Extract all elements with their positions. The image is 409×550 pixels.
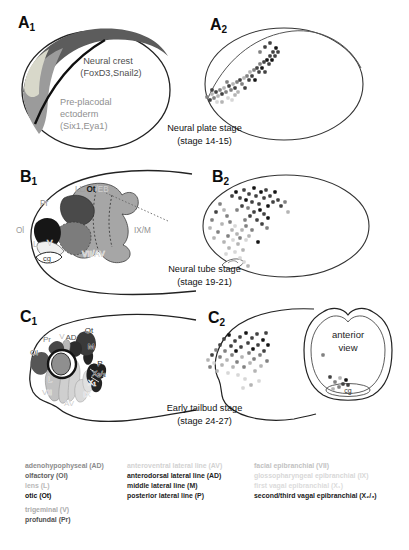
otic-label-part: Ot <box>86 185 95 194</box>
cell-position-dot <box>220 92 223 95</box>
ppe-label-2: ectoderm <box>60 109 99 119</box>
cell-position-dot <box>268 194 271 197</box>
legend-item: profundal (Pr) <box>25 515 125 525</box>
legend-column-placodes: adenohypophyseal (AD)olfactory (Ol)lens … <box>25 461 125 525</box>
cell-position-dot <box>245 74 248 77</box>
caption-neural-plate-stage: Neural plate stage (stage 14-15) <box>0 122 409 148</box>
cell-position-dot <box>262 196 265 199</box>
cell-position-dot <box>258 208 261 211</box>
lens-blob <box>52 353 71 375</box>
cell-position-dot <box>248 361 251 364</box>
caption-line1: Neural tube stage <box>0 263 409 276</box>
cell-position-dot <box>265 58 268 61</box>
cell-position-dot <box>247 192 250 195</box>
trigeminal-label: V <box>47 239 53 248</box>
middle-lateral-label: M <box>88 342 95 351</box>
cell-position-dot <box>265 226 268 229</box>
posterior-lateral-label: P <box>97 359 102 368</box>
cell-position-dot <box>256 240 259 243</box>
glossopharyngeal-middle-label: IX/M <box>134 226 151 235</box>
legend-item: olfactory (Ol) <box>25 471 125 481</box>
cell-position-dot <box>229 344 232 347</box>
cell-position-dot <box>218 355 221 358</box>
cell-position-dot <box>210 88 213 91</box>
cell-position-dot <box>235 232 238 235</box>
facial-anteroventral-label: VII/AV <box>82 250 105 259</box>
cell-position-dot <box>255 66 258 69</box>
cell-position-dot <box>222 337 225 340</box>
cell-position-dot <box>226 371 229 374</box>
cell-position-dot <box>247 351 250 354</box>
cell-position-dot <box>252 210 255 213</box>
cell-position-dot <box>215 369 218 372</box>
olfactory-label: Ol <box>30 348 38 357</box>
epibranchial-label-part: /EB <box>96 185 110 194</box>
cell-position-dot <box>236 242 239 245</box>
legend-item: otic (Ot) <box>25 491 125 501</box>
caption-line2: (stage 19-21) <box>0 276 409 289</box>
cell-position-dot <box>252 186 255 189</box>
cell-position-dot <box>216 94 219 97</box>
cell-position-dot <box>328 375 331 378</box>
cell-position-dot <box>252 357 255 360</box>
legend-item: anteroventral lateral line (AV) <box>127 461 255 471</box>
cell-position-dot <box>321 353 324 356</box>
caption-line2: (stage 14-15) <box>0 135 409 148</box>
cell-position-dot <box>248 70 251 73</box>
profundal-label: Pr <box>43 335 51 344</box>
cell-position-dot <box>236 90 239 93</box>
cell-position-dot <box>222 240 225 243</box>
cell-position-dot <box>344 378 347 381</box>
cell-position-dot <box>276 50 279 53</box>
cell-position-dot <box>231 238 234 241</box>
cell-position-dot <box>210 218 213 221</box>
caption-early-tailbud-stage: Early tailbud stage (stage 24-27) <box>0 402 409 428</box>
cell-position-dot <box>214 90 217 93</box>
cell-position-dot <box>227 246 230 249</box>
cell-position-dot <box>244 238 247 241</box>
cell-position-dot <box>212 236 215 239</box>
cell-position-dot <box>338 376 341 379</box>
cell-position-dot <box>236 373 239 376</box>
cell-position-dot <box>286 210 289 213</box>
cell-position-dot <box>222 208 225 211</box>
cell-position-dot <box>240 228 243 231</box>
cell-position-dot <box>341 382 344 385</box>
cell-position-dot <box>220 100 223 103</box>
cell-position-dot <box>331 387 334 390</box>
lateral-otic-epibranchial-label: LL/Ot/EB <box>75 185 109 194</box>
cell-position-dot <box>257 70 260 73</box>
cell-position-dot <box>212 96 215 99</box>
legend-item: middle lateral line (M) <box>127 481 255 491</box>
cell-position-dot <box>233 93 236 96</box>
cell-position-dot <box>263 70 266 73</box>
cell-position-dot <box>246 206 249 209</box>
profundal-label: Pr <box>40 199 48 208</box>
cell-position-dot <box>208 365 211 368</box>
cell-position-dot <box>250 228 253 231</box>
cell-position-dot <box>241 386 244 389</box>
cell-position-dot <box>218 343 221 346</box>
cell-position-dot <box>262 60 265 63</box>
cell-position-dot <box>260 222 263 225</box>
cell-position-dot <box>262 349 265 352</box>
cell-position-dot <box>238 256 241 259</box>
cell-position-dot <box>225 80 228 83</box>
cell-position-dot <box>253 78 256 81</box>
cell-position-dot <box>235 360 238 363</box>
cell-position-dot <box>267 62 270 65</box>
cell-position-dot <box>231 82 234 85</box>
cell-position-dot <box>333 380 336 383</box>
cell-position-dot <box>208 226 211 229</box>
cell-position-dot <box>266 343 269 346</box>
cell-position-dot <box>218 202 221 205</box>
legend-item: adenohypophyseal (AD) <box>25 461 125 471</box>
cell-position-dot <box>253 369 256 372</box>
cell-position-dot <box>271 200 274 203</box>
cell-position-dot <box>230 194 233 197</box>
cell-position-dot <box>227 333 230 336</box>
cell-position-dot <box>229 88 232 91</box>
cell-position-dot <box>233 224 236 227</box>
cell-position-dot <box>240 204 243 207</box>
cell-position-dot <box>230 353 233 356</box>
